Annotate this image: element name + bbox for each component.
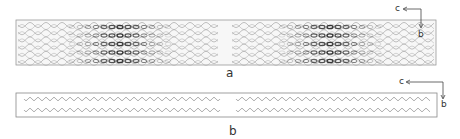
axis-c-label-a: c <box>395 4 400 13</box>
panel-b <box>16 93 437 117</box>
axis-b-label-a: b <box>418 30 424 39</box>
panel-a <box>16 20 436 66</box>
axis-c-label-b: c <box>399 77 404 86</box>
axis-b-label-b: b <box>441 100 447 109</box>
panel-b-label: b <box>229 125 237 137</box>
panel-a-label: a <box>226 67 233 79</box>
